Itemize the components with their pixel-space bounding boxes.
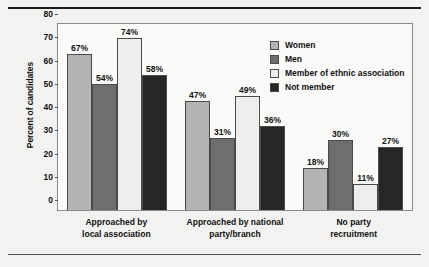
legend-item[interactable]: Men — [270, 54, 405, 64]
y-axis-tick-10: 10 — [44, 172, 58, 182]
legend-label: Not member — [285, 82, 335, 92]
legend-item[interactable]: Member of ethnic association — [270, 68, 405, 78]
legend-item[interactable]: Not member — [270, 82, 405, 92]
y-axis-tick-60: 60 — [44, 56, 58, 66]
bar[interactable]: 11% — [353, 184, 378, 210]
bar[interactable]: 49% — [235, 96, 260, 210]
bar-value-label: 36% — [264, 115, 281, 125]
bar-value-label: 74% — [121, 27, 138, 37]
bar[interactable]: 58% — [142, 75, 167, 210]
legend-label: Men — [285, 54, 302, 64]
bar[interactable]: 30% — [328, 140, 353, 210]
bar-value-label: 54% — [96, 73, 113, 83]
x-axis-label-line: recruitment — [294, 228, 413, 240]
bar[interactable]: 18% — [303, 168, 328, 210]
legend-swatch-icon — [270, 41, 279, 50]
bottom-rule — [8, 254, 421, 255]
y-axis-tick-50: 50 — [44, 79, 58, 89]
legend-swatch-icon — [270, 55, 279, 64]
x-axis-label-line: party/branch — [176, 228, 295, 240]
y-axis-tick-20: 20 — [44, 149, 58, 159]
bar[interactable]: 67% — [67, 54, 92, 210]
bar-value-label: 27% — [382, 136, 399, 146]
legend-item[interactable]: Women — [270, 40, 405, 50]
y-axis-tick-70: 70 — [44, 32, 58, 42]
bar[interactable]: 27% — [378, 147, 403, 210]
legend-label: Women — [285, 40, 316, 50]
bar-value-label: 30% — [332, 129, 349, 139]
x-axis-labels: Approached bylocal associationApproached… — [57, 216, 413, 240]
bar-value-label: 18% — [307, 157, 324, 167]
x-axis-category-label: Approached by nationalparty/branch — [176, 216, 295, 240]
bar-value-label: 47% — [189, 90, 206, 100]
y-axis-tick-0: 0 — [48, 195, 58, 205]
bar-value-label: 49% — [239, 85, 256, 95]
x-axis-label-line: Approached by national — [176, 216, 295, 228]
legend-swatch-icon — [270, 83, 279, 92]
y-axis-tick-40: 40 — [44, 102, 58, 112]
bar-value-label: 11% — [357, 173, 374, 183]
bar[interactable]: 31% — [210, 138, 235, 210]
legend-label: Member of ethnic association — [285, 68, 405, 78]
legend-swatch-icon — [270, 69, 279, 78]
bar[interactable]: 47% — [185, 101, 210, 210]
x-axis-category-label: Approached bylocal association — [57, 216, 176, 240]
top-rule — [8, 7, 421, 9]
x-axis-category-label: No partyrecruitment — [294, 216, 413, 240]
x-axis-label-line: Approached by — [57, 216, 176, 228]
bar[interactable]: 36% — [260, 126, 285, 210]
bar-group: 67%54%74%58% — [58, 24, 176, 210]
x-axis-label-line: No party — [294, 216, 413, 228]
bar-value-label: 67% — [71, 43, 88, 53]
legend: WomenMenMember of ethnic associationNot … — [270, 40, 405, 92]
y-axis-tick-30: 30 — [44, 125, 58, 135]
y-axis-tick-80: 80 — [44, 9, 58, 19]
bar-value-label: 58% — [146, 64, 163, 74]
bar[interactable]: 54% — [92, 84, 117, 210]
bar-value-label: 31% — [214, 127, 231, 137]
y-axis-title: Percent of candidates — [25, 15, 35, 195]
x-axis-label-line: local association — [57, 228, 176, 240]
chart-figure: Percent of candidates 01020304050607080 … — [0, 0, 429, 267]
bar[interactable]: 74% — [117, 38, 142, 210]
